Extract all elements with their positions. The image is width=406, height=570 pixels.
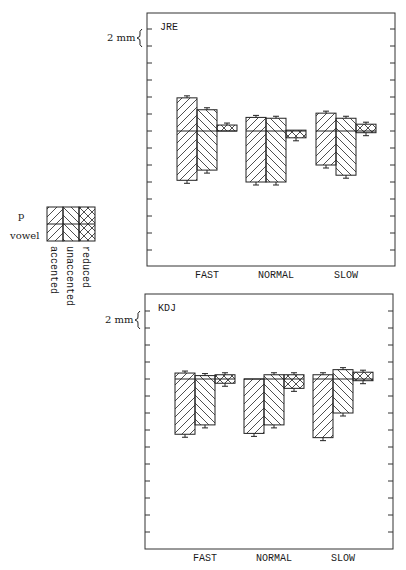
bar-unaccented-fast xyxy=(197,110,217,170)
bar-reduced-fast xyxy=(217,125,237,131)
bar-unaccented-slow xyxy=(333,370,353,413)
bar-unaccented-fast xyxy=(195,376,215,425)
scale-brace-icon xyxy=(137,29,142,47)
legend-vowel-label: vowel xyxy=(9,230,39,241)
bar-unaccented-slow xyxy=(336,118,356,175)
bar-reduced-normal xyxy=(284,375,304,389)
legend-label-unaccented: unaccented xyxy=(64,246,75,306)
chart-jre: JRE2 mmFASTNORMALSLOW xyxy=(107,13,395,281)
scale-brace-icon xyxy=(135,311,140,329)
bar-accented-normal xyxy=(246,117,266,182)
scale-label: 2 mm xyxy=(105,314,134,325)
category-label-normal: NORMAL xyxy=(258,270,294,281)
category-label-fast: FAST xyxy=(195,270,219,281)
bar-unaccented-normal xyxy=(264,375,284,425)
charts: JRE2 mmFASTNORMALSLOWKDJ2 mmFASTNORMALSL… xyxy=(105,13,395,564)
bar-accented-slow xyxy=(313,375,333,438)
bar-accented-normal xyxy=(244,379,264,433)
figure-canvas: pvowelaccentedunaccentedreduced JRE2 mmF… xyxy=(0,0,406,570)
legend: pvowelaccentedunaccentedreduced xyxy=(9,207,95,306)
scale-label: 2 mm xyxy=(107,32,136,43)
chart-kdj: KDJ2 mmFASTNORMALSLOW xyxy=(105,294,393,564)
legend-label-reduced: reduced xyxy=(80,246,91,288)
chart-title: JRE xyxy=(160,22,178,33)
legend-label-accented: accented xyxy=(48,246,59,294)
category-label-normal: NORMAL xyxy=(256,553,292,564)
bar-accented-fast xyxy=(177,98,197,180)
category-label-slow: SLOW xyxy=(334,270,358,281)
category-label-fast: FAST xyxy=(193,553,217,564)
bar-unaccented-normal xyxy=(266,118,286,182)
chart-title: KDJ xyxy=(158,303,176,314)
bar-accented-slow xyxy=(316,113,336,165)
bar-accented-fast xyxy=(175,373,195,434)
legend-p-label: p xyxy=(18,210,24,221)
category-label-slow: SLOW xyxy=(331,553,355,564)
